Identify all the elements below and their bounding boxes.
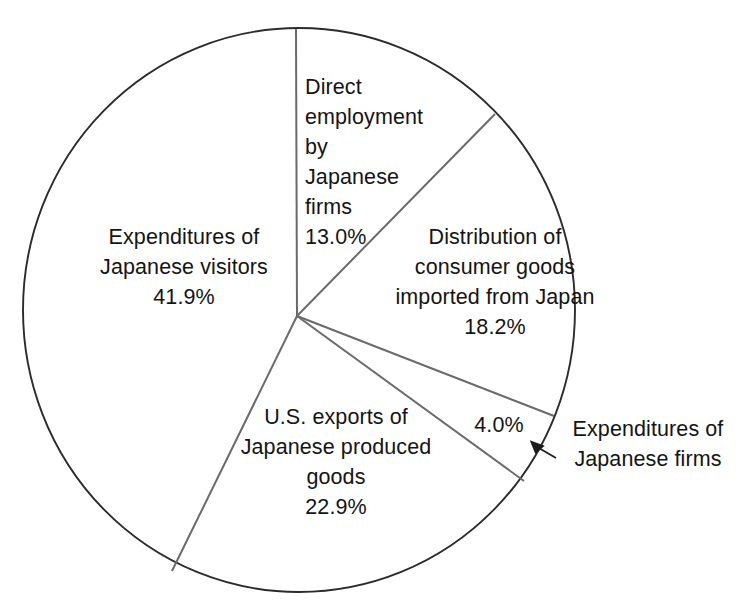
divider-visitors-direct [296,29,297,316]
pie-outline [23,28,575,592]
pie-chart-graphic [0,0,740,613]
pie-chart: Expenditures of Japanese visitors 41.9% … [0,0,740,613]
